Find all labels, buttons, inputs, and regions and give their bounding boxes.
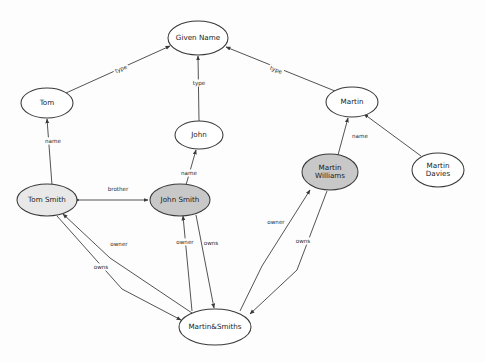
graph-node-martin[interactable]: Martin	[326, 87, 378, 117]
node-label-text: Martin&Smiths	[188, 322, 241, 331]
graph-node-martin_smiths[interactable]: Martin&Smiths	[179, 309, 251, 345]
graph-node-given_name[interactable]: Given Name	[168, 21, 228, 55]
diagram-background	[0, 0, 485, 362]
edge-label-text: owns	[296, 238, 311, 244]
graph-diagram: Given NameTomJohnMartinMartinDaviesMarti…	[0, 0, 485, 362]
graph-node-martin_williams[interactable]: MartinWilliams	[302, 154, 358, 190]
edge-label-e_johnsmith_name: name	[181, 169, 197, 176]
edge-label-e_ts_owner: owner	[110, 240, 129, 247]
node-label-text: Williams	[315, 171, 345, 180]
graph-node-tom_smith[interactable]: Tom Smith	[17, 184, 77, 216]
edge-label-text: name	[181, 170, 197, 176]
node-label-text: Martin	[341, 97, 364, 106]
edge-label-text: owner	[110, 241, 128, 247]
node-label-text: Tom Smith	[27, 195, 66, 204]
edge-label-text: name	[352, 133, 368, 139]
edge-label-text: brother	[108, 186, 129, 192]
edge-label-e_js_owns: owns	[203, 239, 218, 246]
node-label-text: John Smith	[160, 195, 200, 204]
edge-label-e_js_owner: owner	[176, 238, 195, 245]
node-label-text: Given Name	[176, 33, 221, 42]
edge-label-text: type	[193, 80, 206, 87]
edge-label-e_john_type: type	[191, 79, 206, 86]
edge-label-text: owner	[176, 239, 194, 245]
edge-label-e_ts_owns: owns	[93, 263, 108, 270]
edge-label-text: name	[45, 138, 61, 144]
edge-label-e_mw_owner: owner	[267, 218, 286, 225]
node-label-text: John	[190, 130, 207, 139]
node-label-text: Tom	[39, 98, 55, 107]
graph-node-john_smith[interactable]: John Smith	[150, 184, 210, 216]
edge-label-text: owner	[267, 219, 285, 225]
graph-node-john[interactable]: John	[175, 121, 223, 149]
edge-label-text: owns	[94, 264, 109, 270]
edge-label-e_tomsmith_name: name	[45, 137, 61, 144]
graph-node-martin_davies[interactable]: MartinDavies	[412, 153, 464, 187]
edge-label-text: owns	[204, 240, 219, 246]
graph-node-tom[interactable]: Tom	[21, 88, 73, 118]
node-label-text: Davies	[426, 169, 451, 178]
edge-label-e_williams_name: name	[352, 132, 368, 139]
edge-label-e_brother: brother	[106, 185, 131, 192]
edge-label-e_mw_owns: owns	[295, 237, 310, 244]
